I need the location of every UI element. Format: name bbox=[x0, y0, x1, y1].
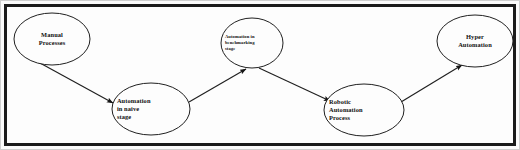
node-label-automation-naive-stage: Automation in naive stage bbox=[117, 83, 185, 135]
edge-naive-to-benchmarking bbox=[189, 69, 246, 102]
node-label-robotic-automation-process: Robotic Automation Process bbox=[329, 84, 399, 136]
edge-manual-to-naive bbox=[40, 63, 113, 103]
edge-robotic-to-hyper bbox=[401, 65, 462, 102]
node-label-hyper-automation: Hyper Automation bbox=[442, 15, 509, 67]
diagram-frame: Manual ProcessesAutomation in naive stag… bbox=[0, 0, 520, 150]
node-label-manual-processes: Manual Processes bbox=[19, 13, 86, 65]
node-label-automation-benchmarking-stage: Automation in benchmarking stage bbox=[225, 18, 279, 68]
edge-benchmarking-to-robotic bbox=[259, 68, 330, 101]
